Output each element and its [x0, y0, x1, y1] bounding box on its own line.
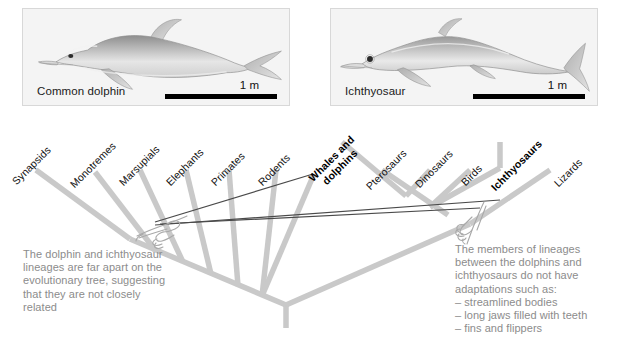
note-right-line-7: – fins and flippers — [455, 322, 620, 335]
note-right-line-4: adaptations such as: — [455, 283, 620, 296]
note-right-line-2: between the dolphins and — [455, 256, 620, 269]
specimen-panel-ichthyosaur: Ichthyosaur 1 m — [330, 8, 598, 106]
scale-bar-line-ichthyosaur — [473, 94, 585, 99]
note-right-line-1: The members of lineages — [455, 243, 620, 256]
note-left-line-5: related — [23, 301, 219, 314]
scale-label-ichthyosaur: 1 m — [473, 79, 585, 92]
scale-bar-dolphin: 1 m — [165, 79, 277, 99]
specimen-panel-dolphin: Common dolphin 1 m — [22, 8, 290, 106]
branch-root-right — [286, 224, 470, 305]
scale-bar-line-dolphin — [165, 94, 277, 99]
panel-caption-dolphin: Common dolphin — [37, 85, 125, 97]
connector-mid — [160, 208, 480, 224]
branch-tip-primates — [229, 170, 238, 286]
annotation-note-left: The dolphin and ichthyosaur lineages are… — [23, 248, 219, 314]
scale-label-dolphin: 1 m — [165, 79, 277, 92]
note-left-line-1: The dolphin and ichthyosaur — [23, 248, 219, 261]
scale-bar-ichthyosaur: 1 m — [473, 79, 585, 99]
figure-canvas: Common dolphin 1 m — [0, 0, 620, 337]
note-right-line-6: – long jaws filled with teeth — [455, 309, 620, 322]
panel-caption-ichthyosaur: Ichthyosaur — [345, 85, 406, 97]
note-left-line-2: lineages are far apart on the — [23, 261, 219, 274]
note-right-line-5: – streamlined bodies — [455, 296, 620, 309]
note-left-line-4: that they are not closely — [23, 288, 219, 301]
annotation-note-right: The members of lineages between the dolp… — [455, 243, 620, 335]
note-right-line-3: ichthyosaurs do not have — [455, 269, 620, 282]
note-left-line-3: evolutionary tree, suggesting — [23, 274, 219, 287]
